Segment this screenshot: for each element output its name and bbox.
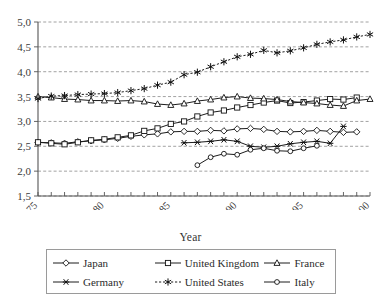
line-chart-svg: 5,04,54,03,53,02,52,01,5 19758085909500 <box>0 0 381 210</box>
circle-marker-icon <box>262 275 292 289</box>
gridlines <box>38 22 370 196</box>
axis-lines <box>34 22 370 196</box>
triangle-marker-icon <box>262 256 292 270</box>
x-axis-tick-labels: 19758085909500 <box>17 200 372 210</box>
legend-item-germany[interactable]: Germany <box>51 275 153 289</box>
series-group <box>35 31 373 168</box>
legend-item-italy[interactable]: Italy <box>262 275 331 289</box>
svg-text:4,5: 4,5 <box>17 41 31 53</box>
legend-label: Japan <box>81 257 108 269</box>
y-axis-tick-labels: 5,04,54,03,53,02,52,01,5 <box>17 16 31 202</box>
svg-text:95: 95 <box>290 200 305 210</box>
svg-text:80: 80 <box>91 200 106 210</box>
legend-row: Japan United Kingdom France <box>51 253 331 272</box>
asterisk-marker-icon <box>153 275 183 289</box>
svg-text:3,5: 3,5 <box>17 91 31 103</box>
svg-text:4,0: 4,0 <box>17 66 31 78</box>
svg-text:2,5: 2,5 <box>17 140 31 152</box>
svg-text:2,0: 2,0 <box>17 165 31 177</box>
svg-text:90: 90 <box>223 200 238 210</box>
x-axis-title: Year <box>0 231 381 243</box>
svg-text:00: 00 <box>356 200 371 210</box>
legend-item-japan[interactable]: Japan <box>51 256 153 270</box>
legend-label: Germany <box>81 276 124 288</box>
cross-marker-icon <box>51 275 81 289</box>
legend-label: United Kingdom <box>183 257 259 269</box>
legend-row: Germany United States Italy <box>51 272 331 291</box>
svg-text:85: 85 <box>157 200 172 210</box>
legend-item-united-kingdom[interactable]: United Kingdom <box>153 256 263 270</box>
chart-page: 5,04,54,03,53,02,52,01,5 19758085909500 … <box>0 0 381 301</box>
x-tickmarks <box>38 192 370 196</box>
chart-legend: Japan United Kingdom France Germany Unit… <box>46 249 336 294</box>
legend-label: France <box>292 257 324 269</box>
svg-text:5,0: 5,0 <box>17 16 31 28</box>
legend-label: Italy <box>292 276 314 288</box>
diamond-marker-icon <box>51 256 81 270</box>
plot-area: 5,04,54,03,53,02,52,01,5 19758085909500 <box>0 0 381 210</box>
svg-text:3,0: 3,0 <box>17 115 31 127</box>
legend-item-united-states[interactable]: United States <box>153 275 263 289</box>
legend-item-france[interactable]: France <box>262 256 331 270</box>
svg-text:1,5: 1,5 <box>17 190 31 202</box>
legend-label: United States <box>183 276 244 288</box>
square-marker-icon <box>153 256 183 270</box>
